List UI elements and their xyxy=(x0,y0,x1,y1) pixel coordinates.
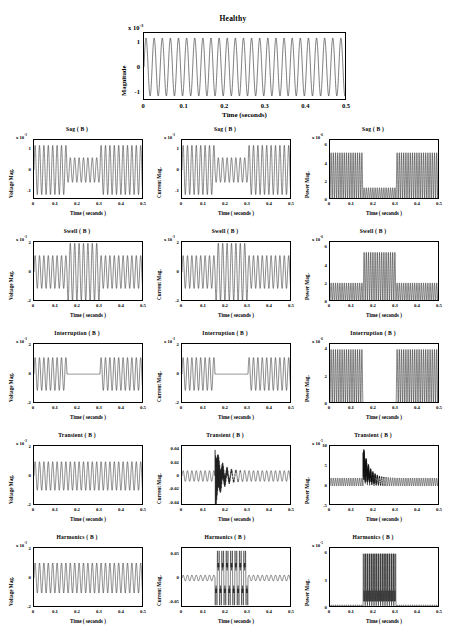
x-tick-label: 0 xyxy=(180,201,182,206)
panel-swell-power: Swell ( B )x 10-6Power Mag.Time ( second… xyxy=(298,228,448,328)
panel-harmonics-voltage: Harmonics ( B )x 10-3Voltage Mag.Time ( … xyxy=(2,534,152,634)
plot-axes xyxy=(329,445,439,505)
x-tick-label: 0.5 xyxy=(288,201,294,206)
x-axis-label: Time ( seconds ) xyxy=(181,516,291,522)
x-tick-label: 0 xyxy=(328,507,330,512)
y-tick-label: 0 xyxy=(304,605,327,610)
y-tick-label: 2 xyxy=(304,373,327,378)
x-tick-label: 0.5 xyxy=(140,609,146,614)
x-axis-label: Time ( seconds ) xyxy=(181,312,291,318)
y-axis-label: Voltage Mag. xyxy=(8,271,14,300)
y-tick-label: -5 xyxy=(304,503,327,508)
x-tick-label: 0.2 xyxy=(222,405,228,410)
x-tick-label: 0.4 xyxy=(266,201,272,206)
y-tick-label: 2 xyxy=(8,342,31,347)
x-tick-label: 0.1 xyxy=(348,303,354,308)
x-tick-label: 0 xyxy=(180,303,182,308)
x-tick-label: 0 xyxy=(180,507,182,512)
x-tick-label: 0.4 xyxy=(266,405,272,410)
y-tick-label: -0.02 xyxy=(156,486,179,491)
x-tick-label: 0.3 xyxy=(96,201,102,206)
x-tick-label: 0.3 xyxy=(244,201,250,206)
x-tick-label: 0.2 xyxy=(370,303,376,308)
x-tick-label: 0.1 xyxy=(348,609,354,614)
x-tick-label: 0.3 xyxy=(392,405,398,410)
y-tick-label: 4 xyxy=(304,262,327,267)
panel-title: Transient ( B ) xyxy=(150,432,300,438)
x-tick-label: 0.1 xyxy=(348,405,354,410)
x-tick-label: 0.4 xyxy=(118,405,124,410)
y-tick-label: -2 xyxy=(156,297,179,302)
y-axis-label: Power Mag. xyxy=(304,171,310,198)
x-tick-label: 0.5 xyxy=(288,507,294,512)
x-tick-label: 0.3 xyxy=(96,507,102,512)
panel-title: Harmonics ( B ) xyxy=(150,534,300,540)
x-axis-label: Time ( seconds ) xyxy=(329,516,439,522)
x-tick-label: 0.2 xyxy=(74,609,80,614)
y-tick-label: 5 xyxy=(304,463,327,468)
x-tick-label: 0.5 xyxy=(436,303,442,308)
x-tick-label: 0.5 xyxy=(140,201,146,206)
x-tick-label: 0.4 xyxy=(414,507,420,512)
plot-axes xyxy=(33,241,143,301)
y-tick-label: -2 xyxy=(8,297,31,302)
y-tick-label: 0 xyxy=(304,401,327,406)
y-tick-label: 0.04 xyxy=(156,446,179,451)
panel-harmonics-current: Harmonics ( B )Current Mag.Time ( second… xyxy=(150,534,300,634)
x-tick-label: 0.1 xyxy=(180,102,188,109)
x-tick-label: 0.4 xyxy=(266,303,272,308)
x-tick-label: 0 xyxy=(328,609,330,614)
x-tick-label: 0.4 xyxy=(118,201,124,206)
x-tick-label: 0 xyxy=(180,609,182,614)
x-tick-label: 0.2 xyxy=(222,609,228,614)
y-tick-label: 0 xyxy=(156,371,179,376)
panel-title: Transient ( B ) xyxy=(2,432,152,438)
x-tick-label: 0.1 xyxy=(52,303,58,308)
y-tick-label: 1 xyxy=(118,37,140,44)
x-tick-label: 0.3 xyxy=(392,303,398,308)
x-axis-label: Time ( seconds ) xyxy=(181,414,291,420)
panel-swell-voltage: Swell ( B )x 10-3Voltage Mag.Time ( seco… xyxy=(2,228,152,328)
x-tick-label: 0.2 xyxy=(370,609,376,614)
x-axis-label: Time ( seconds ) xyxy=(33,210,143,216)
y-tick-label: -2 xyxy=(8,603,31,608)
y-tick-label: 2 xyxy=(304,178,327,183)
y-tick-label: 0 xyxy=(156,167,179,172)
x-tick-label: 0.4 xyxy=(266,507,272,512)
x-tick-label: 0.3 xyxy=(96,609,102,614)
y-axis-label: Voltage Mag. xyxy=(8,169,14,198)
x-tick-label: 0.1 xyxy=(200,405,206,410)
y-exponent-label: x 10-6 xyxy=(312,337,323,344)
panel-title: Healthy xyxy=(118,14,348,23)
x-tick-label: 0.4 xyxy=(414,405,420,410)
y-tick-label: 2 xyxy=(8,546,31,551)
panel-transient-voltage: Transient ( B )x 10-3Voltage Mag.Time ( … xyxy=(2,432,152,532)
y-tick-label: -2 xyxy=(8,501,31,506)
x-tick-label: 0.2 xyxy=(74,405,80,410)
panel-healthy: Healthy x 10-3 Magnitude Time (seconds) … xyxy=(118,14,348,122)
y-tick-label: 1 xyxy=(156,145,179,150)
x-tick-label: 0.5 xyxy=(140,405,146,410)
plot-axes xyxy=(33,547,143,607)
plot-axes xyxy=(181,445,291,505)
y-axis-label: Power Mag. xyxy=(304,477,310,504)
plot-axes xyxy=(329,343,439,403)
panel-title: Interruption ( B ) xyxy=(150,330,300,336)
x-tick-label: 0.3 xyxy=(392,201,398,206)
x-tick-label: 0.4 xyxy=(301,102,309,109)
panel-transient-current: Transient ( B )Current Mag.Time ( second… xyxy=(150,432,300,532)
x-tick-label: 0 xyxy=(32,507,34,512)
y-tick-label: 0 xyxy=(304,299,327,304)
x-tick-label: 0.5 xyxy=(288,405,294,410)
y-tick-label: 0.02 xyxy=(156,459,179,464)
y-tick-label: -2 xyxy=(8,399,31,404)
y-exponent-label: x 10-6 xyxy=(312,235,323,242)
y-exponent-label: x 10-3 xyxy=(164,133,175,140)
x-tick-label: 0.2 xyxy=(220,102,228,109)
x-axis-label: Time ( seconds ) xyxy=(33,312,143,318)
x-axis-label: Time ( seconds ) xyxy=(33,618,143,624)
x-tick-label: 0.3 xyxy=(96,303,102,308)
y-axis-label: Current Mag. xyxy=(156,371,162,402)
y-tick-label: 0 xyxy=(304,483,327,488)
x-tick-label: 0 xyxy=(32,405,34,410)
